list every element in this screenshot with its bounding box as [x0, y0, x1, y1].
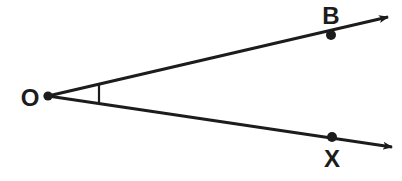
point-b-dot	[326, 30, 336, 40]
angle-diagram: O B X	[0, 0, 402, 181]
point-x-dot	[327, 132, 337, 142]
diagram-canvas: O B X	[0, 0, 402, 181]
label-x: X	[324, 145, 340, 172]
label-b: B	[322, 2, 339, 29]
label-o: O	[21, 84, 40, 111]
vertex-point-o	[43, 91, 52, 100]
